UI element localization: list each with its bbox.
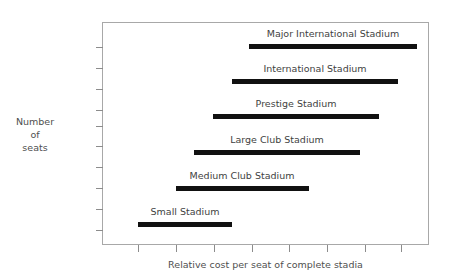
- bar-large-club-stadium: [194, 150, 360, 155]
- bar-label-international-stadium: International Stadium: [225, 63, 405, 75]
- y-axis-title: Number of seats: [4, 115, 66, 154]
- bar-label-large-club-stadium: Large Club Stadium: [187, 134, 367, 146]
- y-axis-title-line-2: of: [4, 128, 66, 141]
- y-tick-mark: [96, 110, 103, 111]
- y-tick-mark: [96, 47, 103, 48]
- x-tick-mark-3: [214, 245, 215, 252]
- bar-small-stadium: [138, 222, 232, 227]
- y-tick-mark: [96, 89, 103, 90]
- x-tick-mark-6: [327, 245, 328, 252]
- bar-label-prestige-stadium: Prestige Stadium: [206, 98, 386, 110]
- x-axis-title: Relative cost per seat of complete stadi…: [102, 259, 429, 271]
- y-tick-mark: [96, 126, 103, 127]
- stadium-cost-chart: 100,000 90,000 80,000 70,000 60,000 50,0…: [0, 0, 450, 277]
- x-tick-mark-8: [401, 245, 402, 252]
- x-tick-mark-4: [252, 245, 253, 252]
- y-axis-title-line-1: Number: [4, 115, 66, 128]
- bar-international-stadium: [232, 79, 398, 84]
- y-axis-title-line-3: seats: [4, 141, 66, 154]
- bar-prestige-stadium: [213, 114, 379, 119]
- bar-medium-club-stadium: [176, 186, 309, 191]
- bar-label-small-stadium: Small Stadium: [95, 206, 275, 218]
- y-tick-mark: [96, 230, 103, 231]
- y-tick-mark: [96, 167, 103, 168]
- bar-label-medium-club-stadium: Medium Club Stadium: [152, 170, 332, 182]
- x-tick-mark-2: [176, 245, 177, 252]
- x-tick-mark-5: [289, 245, 290, 252]
- bar-major-international-stadium: [249, 44, 417, 49]
- x-tick-mark-1: [138, 245, 139, 252]
- y-tick-mark: [96, 188, 103, 189]
- bar-label-major-international-stadium: Major International Stadium: [243, 28, 423, 40]
- y-tick-mark: [96, 68, 103, 69]
- y-tick-mark: [96, 146, 103, 147]
- x-tick-mark-7: [365, 245, 366, 252]
